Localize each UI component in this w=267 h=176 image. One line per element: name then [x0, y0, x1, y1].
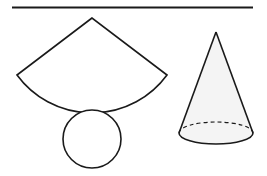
diagram-canvas [0, 0, 267, 176]
cone-3d [179, 32, 253, 144]
net-base-circle [63, 110, 121, 168]
cone-body [179, 32, 253, 144]
cone-net-diagram [0, 0, 267, 176]
net-sector [17, 18, 167, 113]
